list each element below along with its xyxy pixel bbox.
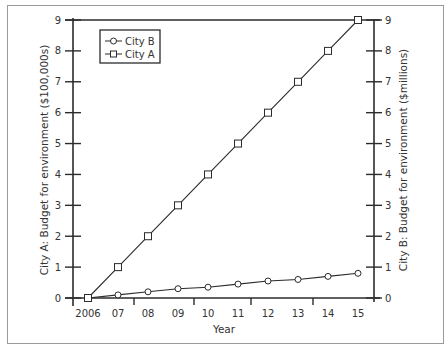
- square-marker-icon: [145, 233, 152, 240]
- square-marker-icon: [355, 17, 362, 24]
- circle-marker-icon: [295, 276, 301, 282]
- circle-marker-icon: [111, 38, 117, 44]
- x-tick-label: 14: [322, 308, 335, 319]
- series-line-city-b: [88, 273, 358, 298]
- x-tick-label: 2006: [75, 308, 100, 319]
- x-tick-label: 11: [232, 308, 245, 319]
- x-tick-label: 09: [172, 308, 185, 319]
- right-y-tick-label: 4: [385, 169, 391, 180]
- x-tick-label: 13: [292, 308, 305, 319]
- square-marker-icon: [325, 47, 332, 54]
- right-y-tick-label: 5: [385, 138, 391, 149]
- left-y-tick-label: 0: [55, 293, 61, 304]
- square-marker-icon: [295, 78, 302, 85]
- circle-marker-icon: [205, 284, 211, 290]
- circle-marker-icon: [115, 292, 121, 298]
- right-y-tick-label: 6: [385, 107, 391, 118]
- x-tick-label: 07: [112, 308, 125, 319]
- circle-marker-icon: [235, 281, 241, 287]
- left-y-tick-label: 1: [55, 262, 61, 273]
- right-y-tick-label: 0: [385, 293, 391, 304]
- left-y-tick-label: 7: [55, 76, 61, 87]
- right-y-axis-title: City B: Budget for environment ($million…: [397, 49, 409, 271]
- square-marker-icon: [111, 51, 117, 57]
- square-marker-icon: [235, 140, 242, 147]
- left-y-tick-label: 4: [55, 169, 61, 180]
- circle-marker-icon: [265, 278, 271, 284]
- right-y-tick-label: 3: [385, 200, 391, 211]
- legend: City B City A: [100, 30, 160, 63]
- circle-marker-icon: [175, 286, 181, 292]
- square-marker-icon: [265, 109, 272, 116]
- right-y-tick-label: 9: [385, 15, 391, 26]
- square-marker-icon: [175, 202, 182, 209]
- left-y-tick-label: 3: [55, 200, 61, 211]
- right-y-tick-label: 8: [385, 45, 391, 56]
- left-y-tick-label: 5: [55, 138, 61, 149]
- right-y-tick-label: 2: [385, 231, 391, 242]
- x-tick-label: 10: [202, 308, 215, 319]
- legend-label-city-a: City A: [125, 49, 155, 60]
- right-y-tick-label: 7: [385, 76, 391, 87]
- legend-label-city-b: City B: [125, 36, 155, 47]
- left-y-tick-label: 9: [55, 15, 61, 26]
- circle-marker-icon: [145, 289, 151, 295]
- circle-marker-icon: [355, 270, 361, 276]
- square-marker-icon: [205, 171, 212, 178]
- left-y-tick-label: 2: [55, 231, 61, 242]
- circle-marker-icon: [325, 273, 331, 279]
- square-marker-icon: [115, 264, 122, 271]
- left-y-axis-title: City A: Budget for environment ($100,000…: [38, 45, 50, 276]
- left-y-tick-label: 8: [55, 45, 61, 56]
- line-chart: 0123456789012345678920060708091011121314…: [0, 0, 448, 354]
- x-tick-label: 12: [262, 308, 275, 319]
- x-axis-title: Year: [212, 323, 236, 335]
- x-tick-label: 15: [352, 308, 365, 319]
- left-y-tick-label: 6: [55, 107, 61, 118]
- square-marker-icon: [85, 295, 92, 302]
- x-tick-label: 08: [142, 308, 155, 319]
- right-y-tick-label: 1: [385, 262, 391, 273]
